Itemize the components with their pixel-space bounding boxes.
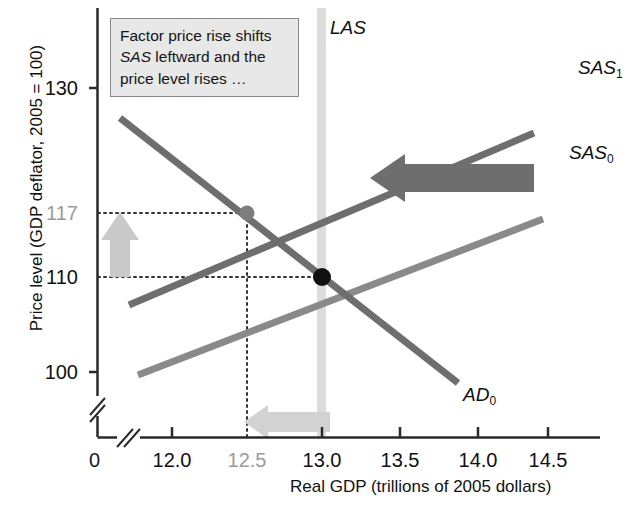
sas0-label-text: SAS	[569, 142, 607, 163]
x-tick-label-14-5: 14.5	[513, 450, 583, 470]
las-curve-label: LAS	[330, 18, 366, 37]
x-tick-label-14-0: 14.0	[443, 450, 513, 470]
sas0-curve	[138, 219, 543, 375]
chart-canvas	[0, 0, 634, 512]
price-level-rise-arrow	[101, 212, 139, 277]
ad0-curve-label: AD0	[463, 385, 496, 404]
x-tick-label-13-5: 13.5	[365, 450, 435, 470]
x-tick-label-13-0: 13.0	[287, 450, 357, 470]
y-tick-label-100: 100	[18, 362, 78, 382]
axis-origin-label: 0	[89, 450, 100, 470]
initial-equilibrium-point	[313, 268, 331, 286]
sas0-curve-label: SAS0	[569, 143, 614, 162]
callout-sas-emphasis: SAS	[120, 48, 151, 65]
ad-as-chart-figure: Price level (GDP deflator, 2005 = 100) R…	[0, 0, 634, 512]
x-tick-label-12-0: 12.0	[137, 450, 207, 470]
callout-line-3: price level rises …	[120, 70, 247, 87]
sas1-label-text: SAS	[578, 57, 616, 78]
ad0-label-text: AD	[463, 384, 489, 405]
new-equilibrium-point	[240, 206, 255, 221]
sas1-label-sub: 1	[616, 67, 623, 81]
callout-line-1: Factor price rise shifts	[120, 27, 272, 44]
y-axis-title: Price level (GDP deflator, 2005 = 100)	[27, 23, 47, 353]
x-tick-label-12-5: 12.5	[212, 450, 282, 470]
y-tick-label-130: 130	[18, 78, 78, 98]
ad0-label-sub: 0	[489, 394, 496, 408]
callout-annotation: Factor price rise shifts SAS leftward an…	[110, 18, 299, 97]
x-axis-title: Real GDP (trillions of 2005 dollars)	[290, 477, 551, 497]
las-label-text: LAS	[330, 17, 366, 38]
y-tick-label-117: 117	[18, 203, 78, 223]
sas-shift-arrow	[370, 154, 534, 202]
ad0-curve	[120, 118, 458, 383]
callout-line-2: leftward and the	[151, 48, 266, 65]
x-axis-break-icon	[117, 429, 140, 447]
y-tick-label-110: 110	[18, 267, 78, 287]
sas1-curve-label: SAS1	[578, 58, 623, 77]
sas0-label-sub: 0	[607, 152, 614, 166]
sas1-curve	[129, 133, 534, 305]
